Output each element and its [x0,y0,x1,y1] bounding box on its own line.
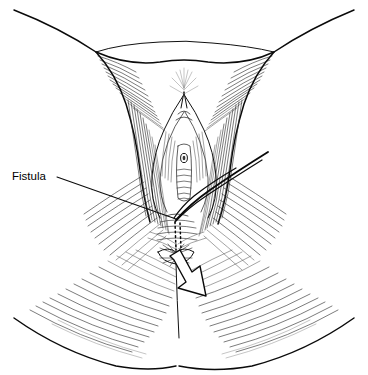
illustration-canvas: Fistula [0,0,368,375]
fistula-label: Fistula [12,170,46,182]
perineal-fistula-illustration: Fistula [0,0,368,375]
background [0,0,368,375]
